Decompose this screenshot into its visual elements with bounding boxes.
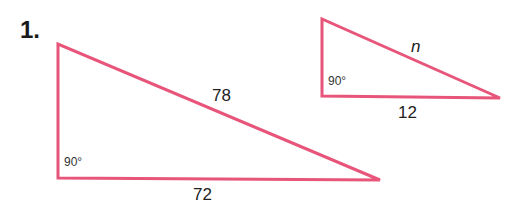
large-base-label: 72 [193, 185, 212, 205]
triangles-figure [0, 0, 525, 213]
small-base-label: 12 [398, 103, 417, 123]
large-right-angle-label: 90° [64, 155, 82, 169]
large-hypotenuse-label: 78 [212, 86, 231, 106]
small-hypotenuse-label: n [411, 37, 420, 57]
large-triangle [58, 44, 380, 180]
small-right-angle-label: 90° [328, 74, 346, 88]
small-triangle [322, 19, 500, 98]
